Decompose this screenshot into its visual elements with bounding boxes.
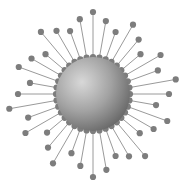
spoke-outer-dot — [42, 51, 48, 57]
spoke-outer-dot — [44, 129, 50, 135]
spoke-outer-dot — [90, 174, 96, 180]
spoke-outer-dot — [164, 118, 170, 124]
spoke-outer-dot — [25, 115, 31, 121]
spoke-outer-dot — [142, 153, 148, 159]
spoke-outer-dot — [15, 91, 21, 97]
spoke-outer-dot — [126, 153, 132, 159]
central-sphere — [56, 57, 130, 131]
spoke-outer-dot — [77, 16, 83, 22]
spoke-outer-dot — [45, 145, 51, 151]
spoke-outer-dot — [130, 22, 136, 28]
spoke-outer-dot — [77, 163, 83, 169]
spoke-outer-dot — [22, 130, 28, 136]
spoke-outer-dot — [6, 106, 12, 112]
spoke-outer-dot — [157, 52, 163, 58]
spoke-outer-dot — [103, 18, 109, 24]
burst-canvas — [0, 0, 185, 192]
spoke-outer-dot — [166, 91, 172, 97]
spoke-outer-dot — [16, 64, 22, 70]
spoke-outer-dot — [50, 160, 56, 166]
spoke-outer-dot — [90, 9, 96, 15]
spoke-outer-dot — [53, 28, 59, 34]
spoke-outer-dot — [103, 167, 109, 173]
spoke-outer-dot — [155, 67, 161, 73]
spoke-outer-dot — [112, 153, 118, 159]
spoke-outer-dot — [67, 28, 73, 34]
spoke-outer-dot — [151, 126, 157, 132]
spoke-outer-dot — [173, 76, 179, 82]
spoke-outer-dot — [137, 130, 143, 136]
spoke-outer-dot — [28, 55, 34, 61]
spoke-outer-dot — [153, 102, 159, 108]
spoke-outer-dot — [38, 29, 44, 35]
spoke-outer-dot — [68, 150, 74, 156]
spoke-outer-dot — [27, 80, 33, 86]
spoke-outer-dot — [137, 51, 143, 57]
radial-burst-figure — [0, 0, 185, 192]
spoke-outer-dot — [136, 37, 142, 43]
spoke-outer-dot — [112, 29, 118, 35]
